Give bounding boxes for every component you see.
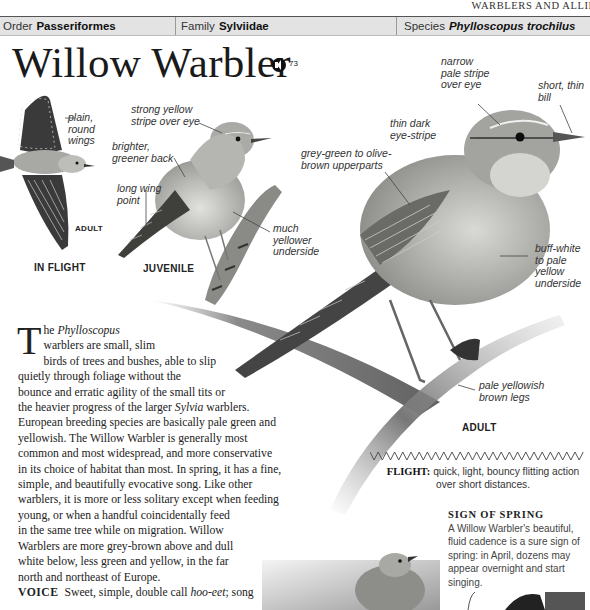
flight-label: FLIGHT: xyxy=(387,466,431,477)
label-brighter-greener-back: brighter, greener back xyxy=(112,141,173,164)
description-line: he Phylloscopus xyxy=(18,323,324,338)
voice-line: VOICE Sweet, simple, double call hoo-eet… xyxy=(18,585,324,600)
description-line: bounce and erratic agility of the small … xyxy=(18,385,324,400)
label-thin-dark-eye-stripe: thin dark eye-stripe xyxy=(390,118,436,141)
sign-of-spring-title: SIGN OF SPRING xyxy=(448,509,544,520)
description-line: quietly through foliage without the xyxy=(18,369,324,384)
flight-pattern-zigzag-icon xyxy=(370,450,590,462)
label-plain-round-wings: plain, round wings xyxy=(68,112,95,147)
description-line: Warblers are more grey-brown above and d… xyxy=(18,539,324,554)
description-line: young, or when a handful coincidentally … xyxy=(18,508,324,523)
caption-adult: ADULT xyxy=(462,422,497,433)
description-line: in its choice of habitat than most. In s… xyxy=(18,462,324,477)
description-line: warblers are small, slim xyxy=(18,338,324,353)
caption-in-flight-adult: ADULT xyxy=(75,224,103,233)
caption-juvenile: JUVENILE xyxy=(143,263,194,274)
caption-in-flight: IN FLIGHT xyxy=(34,262,86,273)
description-line: in the same tree while on migration. Wil… xyxy=(18,523,324,538)
flight-description: FLIGHT: quick, light, bouncy flitting ac… xyxy=(378,465,588,491)
label-much-yellower-underside: much yellower underside xyxy=(273,223,319,258)
description-line: yellowish. The Willow Warbler is general… xyxy=(18,431,324,446)
description-line: European breeding species are basically … xyxy=(18,415,324,430)
label-buff-white-underside: buff-white to pale yellow underside xyxy=(535,243,581,289)
spring-vignette xyxy=(468,592,585,610)
description-lines: he Phylloscopuswarblers are small, slimb… xyxy=(18,323,324,585)
species-description: T he Phylloscopuswarblers are small, sli… xyxy=(18,323,324,600)
description-line: common and most widespread, and more con… xyxy=(18,446,324,461)
description-line: white below, less green and yellow, in t… xyxy=(18,554,324,569)
sign-of-spring-text: A Willow Warbler's beautiful, fluid cade… xyxy=(448,522,590,589)
drop-cap: T xyxy=(17,325,41,356)
description-line: warblers, it is more or less solitary ex… xyxy=(18,492,324,507)
label-pale-yellowish-legs: pale yellowish brown legs xyxy=(479,380,544,403)
description-line: simple, and beautifully evocative song. … xyxy=(18,477,324,492)
label-grey-green-upperparts: grey-green to olive- brown upperparts xyxy=(301,148,391,171)
label-strong-yellow-stripe: strong yellow stripe over eye xyxy=(131,104,200,127)
label-short-thin-bill: short, thin bill xyxy=(538,80,584,103)
description-line: the heavier progress of the larger Sylvi… xyxy=(18,400,324,415)
voice-label: VOICE xyxy=(18,586,59,599)
flight-text: quick, light, bouncy flitting action ove… xyxy=(433,466,579,490)
label-long-wing-point: long wing point xyxy=(117,183,161,206)
description-line: north and northeast of Europe. xyxy=(18,570,324,585)
voice-call: hoo-eet xyxy=(190,586,225,599)
description-line: birds of trees and bushes, able to slip xyxy=(18,354,324,369)
label-narrow-pale-stripe: narrow pale stripe over eye xyxy=(441,56,489,91)
